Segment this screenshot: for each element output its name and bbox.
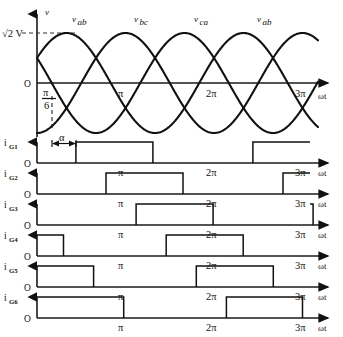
alpha-measure: α [52, 132, 76, 147]
gate-label-g3: i [4, 200, 7, 210]
gate-tick-g5-2: 2π [206, 291, 217, 302]
gate-tick-g2-1: π [118, 198, 124, 209]
gate-pulse-g1-2 [253, 142, 310, 163]
gate-tick-g6-3: 3π [295, 322, 306, 333]
wave-label-subscript: ab [263, 17, 273, 27]
gate-axis-label-g2: ωt [318, 199, 327, 209]
gate-pulse-rows: iG1Oωtπ2π3πiG2Oωtπ2π3πiG3Oωtπ2π3πiG4Oωtπ… [4, 138, 328, 333]
gate-pulse-g4-1 [37, 235, 64, 256]
gate-label-g6: i [4, 293, 7, 303]
wave-label-ab-3: vab [257, 14, 272, 27]
voltage-origin-label: O [24, 79, 31, 89]
voltage-plot: v √2 V O ωt π 6 π2π3π vabvbcvcavab [2, 7, 328, 137]
gate-axis-label-g1: ωt [318, 168, 327, 178]
gate-pulse-g1-1 [76, 142, 153, 163]
gate-label-g1: i [4, 138, 7, 148]
alpha-label: α [59, 132, 65, 143]
gate-origin-g1: O [24, 159, 31, 169]
voltage-x-axis-label: ωt [318, 91, 327, 101]
gate-origin-g4: O [24, 252, 31, 262]
gate-axis-label-g4: ωt [318, 261, 327, 271]
voltage-tick-2: 2π [206, 88, 217, 99]
gate-pulse-g3-2 [310, 204, 313, 225]
gate-tick-g6-2: 2π [206, 322, 217, 333]
gate-pulse-g4-2 [166, 235, 243, 256]
gate-row-g2: iG2Oωtπ2π3π [4, 169, 328, 209]
pi-over-six-numerator: π [43, 87, 49, 98]
wave-label-base: v [72, 14, 76, 24]
gate-tick-g4-1: π [118, 260, 124, 271]
gate-label-subscript-g4: G4 [9, 236, 18, 243]
gate-label-g2: i [4, 169, 7, 179]
gate-axis-label-g3: ωt [318, 230, 327, 240]
wave-label-bc-1: vbc [134, 14, 148, 27]
waveform-name-labels: vabvbcvcavab [72, 14, 272, 27]
wave-label-ca-2: vca [194, 14, 208, 27]
wave-label-base: v [194, 14, 198, 24]
gate-tick-g4-3: 3π [295, 260, 306, 271]
gate-origin-g5: O [24, 283, 31, 293]
gate-tick-g3-3: 3π [295, 229, 306, 240]
gate-row-g4: iG4Oωtπ2π3π [4, 231, 328, 271]
gate-tick-g3-1: π [118, 229, 124, 240]
gate-axis-label-g5: ωt [318, 292, 327, 302]
gate-label-g5: i [4, 262, 7, 272]
voltage-x-tick-labels: π2π3π [118, 88, 306, 99]
gate-row-g3: iG3Oωtπ2π3π [4, 200, 328, 240]
gate-pulse-g6-1 [37, 297, 124, 318]
gate-pulse-g5-1 [37, 266, 94, 287]
gate-row-g5: iG5Oωtπ2π3π [4, 262, 328, 302]
gate-label-g4: i [4, 231, 7, 241]
gate-tick-g6-1: π [118, 322, 124, 333]
voltage-tick-1: π [118, 88, 124, 99]
gate-label-subscript-g3: G3 [9, 205, 18, 212]
voltage-axis-label: v [45, 7, 49, 17]
voltage-tick-3: 3π [295, 88, 306, 99]
wave-label-ab-0: vab [72, 14, 87, 27]
pi-over-six-denominator: 6 [44, 100, 49, 111]
peak-value-label: √2 V [2, 28, 23, 39]
pi-over-six-label: π 6 [42, 87, 56, 111]
gate-axis-label-g6: ωt [318, 323, 327, 333]
waveform-diagram: v √2 V O ωt π 6 π2π3π vabvbcvcavab α [0, 0, 343, 337]
gate-origin-g6: O [24, 314, 31, 324]
gate-row-g6: iG6Oωtπ2π3π [4, 293, 328, 333]
gate-pulse-g3-1 [136, 204, 213, 225]
gate-origin-g2: O [24, 190, 31, 200]
wave-label-subscript: ca [200, 17, 209, 27]
wave-label-base: v [257, 14, 261, 24]
wave-label-subscript: ab [78, 17, 88, 27]
gate-pulse-g6-2 [226, 297, 302, 318]
gate-tick-g2-3: 3π [295, 198, 306, 209]
gate-label-subscript-g1: G1 [9, 143, 18, 150]
figure-canvas: v √2 V O ωt π 6 π2π3π vabvbcvcavab α [0, 0, 343, 337]
wave-label-subscript: bc [140, 17, 149, 27]
gate-tick-g1-2: 2π [206, 167, 217, 178]
gate-label-subscript-g6: G6 [9, 298, 18, 305]
gate-origin-g3: O [24, 221, 31, 231]
gate-label-subscript-g5: G5 [9, 267, 18, 274]
wave-label-base: v [134, 14, 138, 24]
gate-label-subscript-g2: G2 [9, 174, 18, 181]
